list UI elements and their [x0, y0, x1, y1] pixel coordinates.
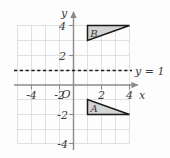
origin-label: O — [61, 88, 70, 101]
triangle-B-label: B — [89, 28, 97, 39]
y-tick-label-4: 4 — [58, 20, 66, 33]
x-tick-label-2: 2 — [97, 89, 105, 102]
y-tick-label-2: 2 — [58, 50, 66, 63]
y-axis-label: y — [60, 7, 68, 20]
y-tick-label-minus4: -4 — [57, 138, 68, 151]
x-axis-arrowhead — [132, 82, 139, 88]
y-tick-label-minus2: -2 — [57, 109, 68, 122]
graph-canvas: -4 -2 2 4 4 2 -2 -4 O x y y = 1 B A — [0, 0, 170, 158]
reference-line-label: y = 1 — [134, 65, 164, 78]
x-tick-label-minus4: -4 — [26, 89, 37, 102]
x-tick-label-4: 4 — [125, 89, 133, 102]
triangle-A-label: A — [89, 103, 97, 114]
x-axis-label: x — [139, 89, 146, 102]
coordinate-plane-figure: -4 -2 2 4 4 2 -2 -4 O x y y = 1 B A — [0, 0, 170, 158]
y-axis-arrowhead — [70, 11, 76, 18]
